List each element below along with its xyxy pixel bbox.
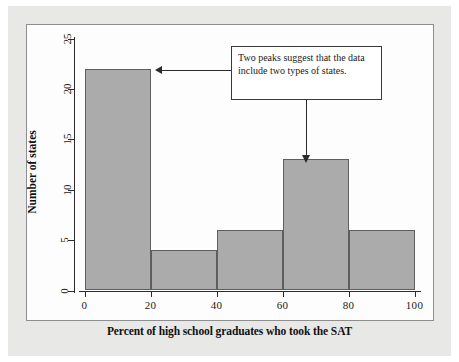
- histogram-bar: [85, 69, 151, 291]
- y-axis-tick-label: 10: [60, 184, 72, 195]
- y-axis-tick-label: 20: [60, 83, 72, 94]
- x-axis-tick-label: 100: [406, 299, 423, 311]
- histogram-bar: [349, 230, 415, 290]
- x-axis-tick-label: 80: [343, 299, 355, 311]
- y-axis-tick-label: 5: [57, 237, 69, 243]
- x-axis-tick: [85, 292, 86, 297]
- annotation-arrowhead-down-icon: [302, 155, 310, 163]
- x-axis-tick-label: 40: [211, 299, 223, 311]
- y-axis-line: [74, 37, 75, 293]
- y-axis-tick-label: 0: [57, 288, 69, 294]
- annotation-leader-line-vertical: [306, 100, 307, 156]
- histogram-bar: [217, 230, 283, 290]
- x-axis-tick-label: 20: [145, 299, 157, 311]
- annotation-arrowhead-left-icon: [155, 66, 162, 74]
- x-axis-line: [79, 291, 421, 292]
- x-axis-title: Percent of high school graduates who too…: [0, 325, 459, 337]
- x-axis-tick: [415, 292, 416, 297]
- x-axis-tick: [349, 292, 350, 297]
- plot-area: 0204060801000510152025: [0, 0, 459, 362]
- y-axis-tick-label: 25: [60, 33, 72, 44]
- histogram-bar: [151, 250, 217, 290]
- x-axis-tick: [217, 292, 218, 297]
- x-axis-tick: [151, 292, 152, 297]
- x-axis-tick-label: 0: [82, 299, 88, 311]
- chart-figure: 0204060801000510152025 Number of states …: [0, 0, 459, 362]
- histogram-bar: [283, 159, 349, 290]
- y-axis-title: Number of states: [26, 130, 38, 213]
- x-axis-tick: [283, 292, 284, 297]
- annotation-callout-box: Two peaks suggest that the data include …: [231, 46, 382, 100]
- y-axis-tick-label: 15: [60, 134, 72, 145]
- x-axis-tick-label: 60: [277, 299, 289, 311]
- annotation-leader-line-horizontal: [158, 70, 231, 71]
